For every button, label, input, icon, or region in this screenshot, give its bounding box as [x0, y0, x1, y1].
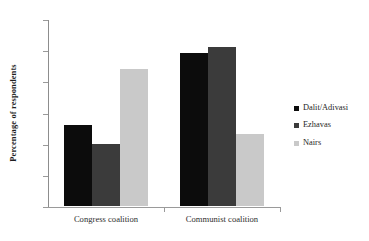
legend-item-ezhavas: Ezhavas: [294, 121, 366, 129]
legend-label-ezhavas: Ezhavas: [303, 121, 331, 129]
legend-item-dalit-adivasi: Dalit/Adivasi: [294, 104, 366, 112]
legend-item-nairs: Nairs: [294, 139, 366, 147]
bar-congress-ezhavas: [92, 144, 120, 206]
bar-chart-figure: Percentage of respondents 60 50 40 30 20…: [0, 0, 369, 241]
bar-congress-dalit-adivasi: [64, 125, 92, 206]
x-category-label-congress: Congress coalition: [48, 214, 164, 224]
legend-swatch-icon-ezhavas: [294, 123, 299, 128]
y-axis-title: Percentage of respondents: [8, 38, 18, 188]
legend-swatch-icon-nairs: [294, 141, 299, 146]
bar-communist-dalit-adivasi: [180, 53, 208, 206]
x-tick-mark-mid: [164, 207, 165, 212]
x-tick-mark-right: [280, 207, 281, 212]
plot-area: [48, 20, 280, 207]
y-tick-mark-0: [43, 207, 48, 208]
x-category-label-communist: Communist coalition: [164, 214, 280, 224]
legend-label-nairs: Nairs: [303, 139, 321, 147]
legend-label-dalit-adivasi: Dalit/Adivasi: [303, 104, 348, 112]
bar-group-communist-coalition: [164, 19, 280, 206]
legend: Dalit/Adivasi Ezhavas Nairs: [294, 104, 366, 156]
legend-swatch-icon-dalit-adivasi: [294, 106, 299, 111]
bar-communist-ezhavas: [208, 47, 236, 206]
bar-congress-nairs: [120, 69, 148, 206]
bar-communist-nairs: [236, 134, 264, 206]
bar-group-congress-coalition: [48, 19, 164, 206]
